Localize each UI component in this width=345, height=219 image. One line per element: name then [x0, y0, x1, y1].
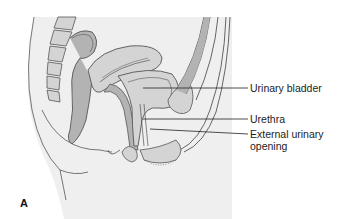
label-urinary-bladder: Urinary bladder	[250, 82, 322, 94]
anatomy-figure: Urinary bladder Urethra External urinary…	[0, 0, 345, 219]
panel-letter: A	[20, 197, 28, 209]
female-pelvis-sagittal-illustration	[0, 0, 345, 219]
label-external-urinary-opening-line2: opening	[250, 140, 287, 152]
label-external-urinary-opening-line1: External urinary	[250, 128, 324, 140]
label-urethra: Urethra	[250, 113, 285, 125]
